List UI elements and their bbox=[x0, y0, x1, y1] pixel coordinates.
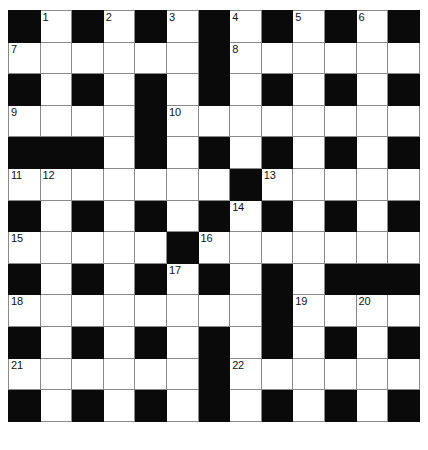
numbered-cell[interactable]: 17 bbox=[166, 263, 198, 295]
letter-cell[interactable] bbox=[388, 42, 420, 74]
letter-cell[interactable] bbox=[388, 168, 420, 200]
letter-cell[interactable] bbox=[293, 263, 325, 295]
letter-cell[interactable] bbox=[103, 168, 135, 200]
letter-cell[interactable] bbox=[230, 137, 262, 169]
letter-cell[interactable] bbox=[261, 358, 293, 390]
numbered-cell[interactable]: 1 bbox=[40, 11, 72, 43]
letter-cell[interactable] bbox=[198, 168, 230, 200]
letter-cell[interactable] bbox=[166, 168, 198, 200]
letter-cell[interactable] bbox=[324, 232, 356, 264]
letter-cell[interactable] bbox=[72, 42, 104, 74]
numbered-cell[interactable]: 13 bbox=[261, 168, 293, 200]
letter-cell[interactable] bbox=[40, 105, 72, 137]
letter-cell[interactable] bbox=[103, 295, 135, 327]
letter-cell[interactable] bbox=[324, 358, 356, 390]
letter-cell[interactable] bbox=[103, 326, 135, 358]
letter-cell[interactable] bbox=[40, 42, 72, 74]
numbered-cell[interactable]: 8 bbox=[230, 42, 262, 74]
numbered-cell[interactable]: 6 bbox=[356, 11, 388, 43]
letter-cell[interactable] bbox=[166, 326, 198, 358]
letter-cell[interactable] bbox=[40, 390, 72, 422]
letter-cell[interactable] bbox=[103, 390, 135, 422]
numbered-cell[interactable]: 15 bbox=[9, 232, 41, 264]
numbered-cell[interactable]: 2 bbox=[103, 11, 135, 43]
letter-cell[interactable] bbox=[356, 105, 388, 137]
letter-cell[interactable] bbox=[40, 358, 72, 390]
letter-cell[interactable] bbox=[356, 168, 388, 200]
letter-cell[interactable] bbox=[135, 42, 167, 74]
letter-cell[interactable] bbox=[261, 105, 293, 137]
letter-cell[interactable] bbox=[356, 74, 388, 106]
numbered-cell[interactable]: 19 bbox=[293, 295, 325, 327]
letter-cell[interactable] bbox=[293, 232, 325, 264]
letter-cell[interactable] bbox=[293, 326, 325, 358]
numbered-cell[interactable]: 5 bbox=[293, 11, 325, 43]
letter-cell[interactable] bbox=[72, 105, 104, 137]
letter-cell[interactable] bbox=[324, 168, 356, 200]
numbered-cell[interactable]: 10 bbox=[166, 105, 198, 137]
letter-cell[interactable] bbox=[40, 200, 72, 232]
letter-cell[interactable] bbox=[166, 295, 198, 327]
numbered-cell[interactable]: 3 bbox=[166, 11, 198, 43]
letter-cell[interactable] bbox=[103, 232, 135, 264]
numbered-cell[interactable]: 18 bbox=[9, 295, 41, 327]
letter-cell[interactable] bbox=[166, 42, 198, 74]
letter-cell[interactable] bbox=[293, 137, 325, 169]
numbered-cell[interactable]: 9 bbox=[9, 105, 41, 137]
letter-cell[interactable] bbox=[103, 42, 135, 74]
letter-cell[interactable] bbox=[356, 232, 388, 264]
letter-cell[interactable] bbox=[293, 74, 325, 106]
letter-cell[interactable] bbox=[103, 263, 135, 295]
letter-cell[interactable] bbox=[356, 390, 388, 422]
letter-cell[interactable] bbox=[388, 295, 420, 327]
letter-cell[interactable] bbox=[356, 42, 388, 74]
letter-cell[interactable] bbox=[230, 74, 262, 106]
letter-cell[interactable] bbox=[40, 74, 72, 106]
letter-cell[interactable] bbox=[324, 42, 356, 74]
numbered-cell[interactable]: 22 bbox=[230, 358, 262, 390]
letter-cell[interactable] bbox=[103, 358, 135, 390]
letter-cell[interactable] bbox=[388, 232, 420, 264]
letter-cell[interactable] bbox=[103, 74, 135, 106]
letter-cell[interactable] bbox=[166, 358, 198, 390]
letter-cell[interactable] bbox=[356, 137, 388, 169]
numbered-cell[interactable]: 4 bbox=[230, 11, 262, 43]
letter-cell[interactable] bbox=[324, 295, 356, 327]
letter-cell[interactable] bbox=[72, 295, 104, 327]
letter-cell[interactable] bbox=[40, 326, 72, 358]
letter-cell[interactable] bbox=[40, 263, 72, 295]
letter-cell[interactable] bbox=[293, 358, 325, 390]
numbered-cell[interactable]: 12 bbox=[40, 168, 72, 200]
letter-cell[interactable] bbox=[198, 295, 230, 327]
letter-cell[interactable] bbox=[293, 390, 325, 422]
letter-cell[interactable] bbox=[230, 326, 262, 358]
letter-cell[interactable] bbox=[72, 232, 104, 264]
letter-cell[interactable] bbox=[356, 326, 388, 358]
letter-cell[interactable] bbox=[135, 168, 167, 200]
letter-cell[interactable] bbox=[324, 105, 356, 137]
letter-cell[interactable] bbox=[40, 295, 72, 327]
crossword-grid[interactable]: 12345678910111213141516171819202122 bbox=[8, 10, 420, 422]
letter-cell[interactable] bbox=[103, 105, 135, 137]
numbered-cell[interactable]: 14 bbox=[230, 200, 262, 232]
numbered-cell[interactable]: 16 bbox=[198, 232, 230, 264]
letter-cell[interactable] bbox=[230, 232, 262, 264]
letter-cell[interactable] bbox=[72, 358, 104, 390]
letter-cell[interactable] bbox=[103, 137, 135, 169]
letter-cell[interactable] bbox=[356, 200, 388, 232]
letter-cell[interactable] bbox=[135, 295, 167, 327]
letter-cell[interactable] bbox=[293, 168, 325, 200]
letter-cell[interactable] bbox=[166, 74, 198, 106]
letter-cell[interactable] bbox=[166, 200, 198, 232]
letter-cell[interactable] bbox=[261, 42, 293, 74]
numbered-cell[interactable]: 11 bbox=[9, 168, 41, 200]
numbered-cell[interactable]: 7 bbox=[9, 42, 41, 74]
letter-cell[interactable] bbox=[230, 263, 262, 295]
letter-cell[interactable] bbox=[230, 105, 262, 137]
letter-cell[interactable] bbox=[166, 137, 198, 169]
letter-cell[interactable] bbox=[293, 200, 325, 232]
letter-cell[interactable] bbox=[103, 200, 135, 232]
letter-cell[interactable] bbox=[230, 295, 262, 327]
numbered-cell[interactable]: 21 bbox=[9, 358, 41, 390]
letter-cell[interactable] bbox=[261, 232, 293, 264]
